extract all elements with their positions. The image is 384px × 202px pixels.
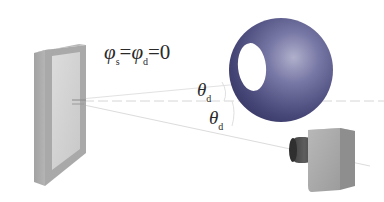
angle-arc-upper — [222, 82, 226, 101]
light-panel — [34, 44, 86, 186]
camera — [289, 128, 355, 192]
theta-subscript: d — [206, 93, 211, 104]
diagram-canvas — [0, 0, 384, 202]
panel-side — [34, 50, 45, 186]
equals-zero: =0 — [148, 40, 170, 64]
equals-sign: = — [120, 40, 132, 64]
phi-symbol: φ — [131, 40, 143, 64]
theta-d-upper-label: θd — [197, 80, 211, 99]
phi-subscript-s: s — [116, 56, 120, 67]
camera-body — [308, 128, 340, 192]
sphere-view-line — [70, 84, 240, 100]
phi-equation-label: φs=φd=0 — [104, 42, 170, 63]
theta-d-lower-label: θd — [209, 108, 223, 127]
phi-subscript-d: d — [143, 56, 148, 67]
phi-symbol: φ — [104, 40, 116, 64]
theta-subscript: d — [218, 121, 223, 132]
theta-symbol: θ — [209, 107, 218, 128]
camera-side — [340, 128, 355, 190]
theta-symbol: θ — [197, 79, 206, 100]
angle-arc-lower — [232, 101, 234, 126]
sphere — [229, 18, 333, 122]
